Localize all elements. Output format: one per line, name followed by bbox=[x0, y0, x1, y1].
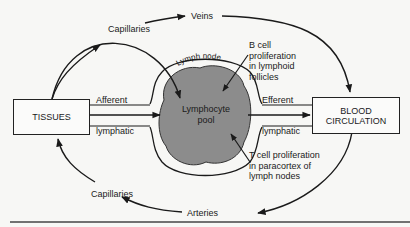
blood-circulation-box: BLOOD CIRCULATION bbox=[312, 97, 400, 134]
efferent-label: Efferent bbox=[262, 95, 293, 105]
capillaries-bottom-label: Capillaries bbox=[91, 189, 133, 199]
t-cell-annotation: T cell proliferation in paracortex of ly… bbox=[249, 150, 320, 182]
circulation-label: CIRCULATION bbox=[326, 116, 386, 126]
capillaries-top-label: Capillaries bbox=[108, 24, 150, 34]
veins-label: Veins bbox=[191, 11, 213, 21]
b-cell-annotation: B cell proliferation in lymphoid follicl… bbox=[249, 40, 296, 82]
lymphocyte-pool-label: Lymphocyte pool bbox=[180, 104, 232, 126]
lymphatic-left-label: lymphatic bbox=[96, 126, 134, 136]
lymphatic-right-label: lymphatic bbox=[262, 126, 300, 136]
blood-label: BLOOD bbox=[340, 106, 372, 116]
tissues-box: TISSUES bbox=[13, 99, 90, 135]
afferent-label: Afferent bbox=[96, 95, 127, 105]
tissues-label: TISSUES bbox=[32, 112, 71, 122]
arteries-label: Arteries bbox=[187, 208, 218, 218]
